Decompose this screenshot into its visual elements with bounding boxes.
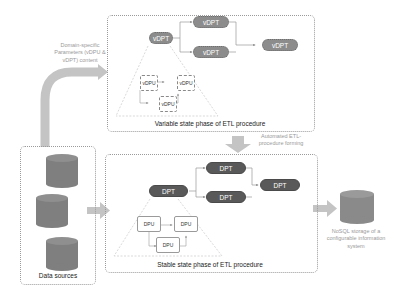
stable-unit-1: DPU xyxy=(137,216,161,232)
down-arrow-head xyxy=(225,144,251,153)
database-cylinder-icon xyxy=(46,154,78,188)
nosql-storage-cylinder-icon xyxy=(340,190,374,224)
stable-branch-node-2: DPT xyxy=(206,191,246,203)
stable-output-node: DPT xyxy=(260,179,300,191)
variable-branch-node-2: vDPT xyxy=(193,46,229,58)
storage-note: NoSQL storage of a configurable informat… xyxy=(326,228,386,250)
parameters-note: Domain-specific Parameters (vDPU & vDPT)… xyxy=(52,42,108,64)
variable-branch-node-1: vDPT xyxy=(193,16,229,28)
automated-note: Automated ETL-procedure forming xyxy=(250,133,312,148)
variable-unit-2: vDPU xyxy=(177,75,195,91)
variable-phase-panel xyxy=(107,15,315,132)
stable-branch-node-1: DPT xyxy=(206,162,246,174)
variable-unit-1: vDPU xyxy=(140,75,158,91)
variable-output-node: vDPT xyxy=(262,39,298,51)
data-sources-caption: Data sources xyxy=(20,272,96,279)
database-cylinder-icon xyxy=(36,194,68,228)
stable-unit-2: DPU xyxy=(174,216,198,232)
variable-phase-caption: Variable state phase of ETL procedure xyxy=(130,120,290,127)
stable-unit-3: DPU xyxy=(156,237,180,253)
variable-main-node: vDPT xyxy=(149,32,173,44)
down-arrow-shaft xyxy=(232,136,244,144)
parameters-flow-arrow xyxy=(45,72,98,147)
variable-unit-3: vDPU xyxy=(159,96,177,112)
stable-phase-caption: Stable state phase of ETL procedure xyxy=(130,261,290,268)
stable-main-node: DPT xyxy=(149,185,188,197)
database-cylinder-icon xyxy=(46,237,78,271)
